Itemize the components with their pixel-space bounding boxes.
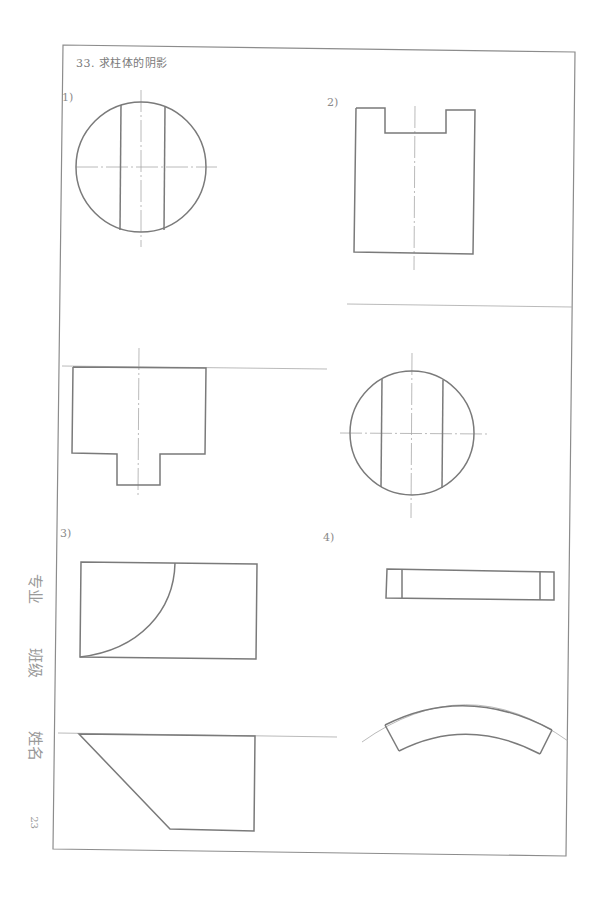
problem-3-label: 3) (60, 527, 71, 540)
problem-3-front-view (80, 562, 257, 659)
problem-1-label: 1) (62, 91, 73, 104)
page-number: 23 (29, 816, 40, 829)
ground-line-2 (347, 304, 572, 307)
problem-4-plan-view (362, 705, 568, 754)
problem-2-front-view (354, 106, 475, 270)
problem-2-label: 2) (327, 96, 338, 109)
side-label-major: 专业 (26, 574, 47, 604)
side-label-class: 班级 (26, 648, 47, 678)
problem-4-front-view (386, 569, 554, 600)
worksheet-page: 33. 求柱体的阴影 1) 2) 3) 4) 专业 班级 姓名 23 (0, 0, 598, 900)
problem-1-front-view (62, 348, 327, 496)
problem-3-plan-view (58, 733, 337, 831)
page-title: 33. 求柱体的阴影 (76, 54, 168, 70)
side-label-name: 姓名 (26, 731, 47, 761)
problem-2-plan-view (340, 353, 488, 518)
problem-4-label: 4) (323, 531, 334, 544)
problem-1-plan-view (76, 90, 217, 247)
technical-drawings (0, 0, 598, 900)
